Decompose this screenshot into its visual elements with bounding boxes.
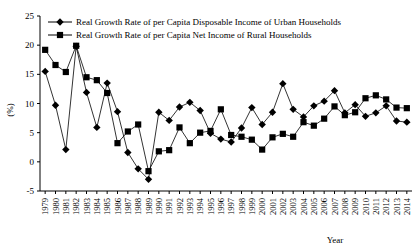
data-point-square	[383, 96, 389, 102]
x-tick-label: 2001	[268, 198, 278, 215]
data-point-square	[321, 116, 327, 122]
data-point-square	[269, 134, 275, 140]
data-point-square	[145, 168, 151, 174]
data-point-square	[373, 92, 379, 98]
x-tick-label: 1987	[123, 198, 133, 215]
data-point-square	[290, 134, 296, 140]
income-growth-line-chart: Real Growth Rate of per Capita Disposabl…	[0, 0, 420, 250]
x-tick-label: 1979	[40, 198, 50, 215]
x-tick-label: 2006	[319, 198, 329, 215]
x-tick-label: 1990	[154, 198, 164, 215]
x-tick-label: 1994	[195, 197, 205, 215]
data-point-square	[42, 47, 48, 53]
x-tick-label: 1989	[144, 198, 154, 215]
x-tick-label: 2011	[371, 198, 381, 215]
x-tick-label: 1993	[185, 198, 195, 215]
data-point-square	[125, 128, 131, 134]
x-tick-label: 2013	[392, 198, 402, 215]
data-point-square	[311, 123, 317, 129]
x-tick-label: 2005	[309, 198, 319, 215]
legend-label: Real Growth Rate of per Capita Disposabl…	[76, 17, 341, 27]
x-tick-label: 2008	[340, 198, 350, 215]
legend-label: Real Growth Rate of per Capita Net Incom…	[76, 30, 312, 40]
x-tick-label: 2004	[299, 197, 309, 215]
data-point-square	[207, 128, 213, 134]
legend-item-urban: Real Growth Rate of per Capita Disposabl…	[48, 17, 341, 27]
data-point-square	[156, 148, 162, 154]
x-tick-label: 1980	[51, 198, 61, 215]
x-tick-label: 1999	[247, 198, 257, 215]
x-tick-label: 2012	[381, 198, 391, 215]
y-tick-label: 15	[25, 69, 35, 79]
data-point-square	[352, 109, 358, 115]
x-tick-label: 2003	[288, 198, 298, 215]
legend-item-rural: Real Growth Rate of per Capita Net Incom…	[48, 30, 312, 40]
x-tick-label: 1991	[164, 198, 174, 215]
x-tick-label: 1992	[175, 198, 185, 215]
y-axis-title: (%)	[5, 103, 15, 117]
x-tick-label: 1998	[237, 198, 247, 215]
y-tick-label: 0	[30, 157, 35, 167]
data-point-square	[57, 32, 63, 38]
data-point-square	[404, 105, 410, 111]
y-tick-label: 20	[25, 40, 35, 50]
x-tick-label: 2010	[361, 198, 371, 215]
data-point-square	[249, 137, 255, 143]
data-point-square	[176, 124, 182, 130]
x-tick-label: 2014	[402, 197, 412, 215]
data-point-square	[393, 104, 399, 110]
data-point-square	[83, 74, 89, 80]
data-point-square	[228, 132, 234, 138]
x-tick-label: 2000	[257, 198, 267, 215]
data-point-square	[218, 106, 224, 112]
x-tick-label: 2002	[278, 198, 288, 215]
x-tick-label: 2007	[330, 198, 340, 215]
x-tick-label: 1985	[102, 198, 112, 215]
data-point-square	[166, 147, 172, 153]
data-point-square	[362, 95, 368, 101]
y-tick-label: 10	[25, 99, 35, 109]
data-point-square	[63, 69, 69, 75]
data-point-square	[73, 43, 79, 49]
y-tick-label: -5	[27, 186, 35, 196]
data-point-square	[104, 90, 110, 96]
data-point-square	[187, 140, 193, 146]
x-tick-label: 1981	[61, 198, 71, 215]
x-tick-label: 2009	[350, 198, 360, 215]
data-point-square	[135, 121, 141, 127]
x-tick-label: 1995	[206, 198, 216, 215]
data-point-square	[300, 119, 306, 125]
x-tick-label: 1984	[92, 197, 102, 215]
x-tick-label: 1982	[71, 198, 81, 215]
data-point-square	[342, 112, 348, 118]
data-point-square	[197, 130, 203, 136]
x-tick-label: 1986	[113, 198, 123, 215]
x-tick-label: 1996	[216, 198, 226, 215]
data-point-square	[94, 77, 100, 83]
data-point-square	[331, 103, 337, 109]
data-point-square	[114, 140, 120, 146]
data-point-square	[259, 146, 265, 152]
y-tick-label: 5	[30, 128, 35, 138]
x-tick-label: 1997	[226, 198, 236, 215]
data-point-square	[280, 131, 286, 137]
data-point-square	[52, 62, 58, 68]
chart-container: Real Growth Rate of per Capita Disposabl…	[0, 0, 420, 250]
x-axis-title: Year	[327, 235, 344, 245]
x-tick-label: 1983	[82, 198, 92, 215]
data-point-square	[238, 134, 244, 140]
y-tick-label: 25	[25, 11, 35, 21]
x-tick-label: 1988	[133, 198, 143, 215]
